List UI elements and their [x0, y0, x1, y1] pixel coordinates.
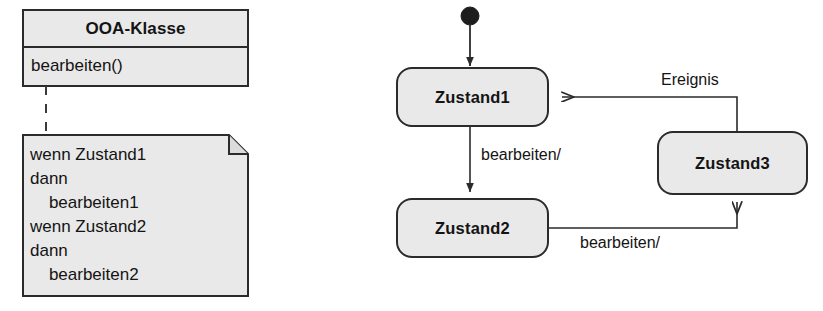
transition-zustand2-to-zustand3[interactable]	[548, 202, 737, 228]
transition-label-zustand3-zustand1: Ereignis	[661, 72, 719, 88]
state-zustand1-label: Zustand1	[397, 89, 548, 106]
note-line-5: bearbeiten2	[30, 266, 139, 283]
state-zustand2-label: Zustand2	[397, 220, 548, 237]
note-line-2: bearbeiten1	[30, 194, 139, 211]
note-line-3: wenn Zustand2	[30, 218, 146, 235]
start-node[interactable]	[461, 7, 479, 25]
class-operation-0: bearbeiten()	[31, 57, 123, 74]
note-line-4: dann	[30, 242, 68, 259]
transition-zustand3-to-zustand1[interactable]	[562, 97, 737, 132]
note-line-0: wenn Zustand1	[30, 146, 146, 163]
state-zustand3-label: Zustand3	[658, 155, 807, 172]
note-dogear-icon	[229, 135, 248, 154]
class-name-label: OOA-Klasse	[23, 20, 248, 37]
note-line-1: dann	[30, 170, 68, 187]
diagram-canvas: OOA-Klasse bearbeiten() wenn Zustand1 da…	[0, 0, 823, 311]
transition-label-zustand1-zustand2: bearbeiten/	[481, 147, 561, 163]
transition-label-zustand2-zustand3: bearbeiten/	[580, 235, 660, 251]
